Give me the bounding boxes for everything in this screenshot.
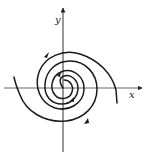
phase-portrait bbox=[0, 0, 149, 153]
spiral-trajectory-a bbox=[37, 52, 117, 109]
direction-arrow-icon bbox=[84, 118, 89, 124]
x-axis-label: x bbox=[129, 90, 135, 100]
direction-arrow-icon bbox=[44, 52, 49, 58]
y-axis-label: y bbox=[55, 15, 61, 25]
